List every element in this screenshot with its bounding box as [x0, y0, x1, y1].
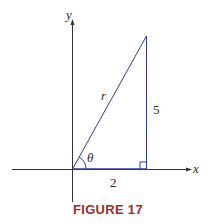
x-axis-label: x — [192, 161, 199, 176]
right-angle-marker — [140, 162, 147, 169]
vertical-side-label: 5 — [153, 102, 160, 117]
hypotenuse-label: r — [101, 88, 107, 103]
horizontal-side-label: 2 — [110, 175, 117, 190]
x-axis-arrow-icon — [186, 168, 192, 172]
y-axis-label: y — [64, 7, 72, 22]
figure-caption: FIGURE 17 — [0, 202, 216, 217]
diagram-canvas: y x r 5 2 θ — [0, 0, 216, 224]
triangle-hypotenuse — [73, 36, 147, 169]
angle-arc — [79, 157, 86, 169]
angle-label: θ — [87, 150, 94, 165]
